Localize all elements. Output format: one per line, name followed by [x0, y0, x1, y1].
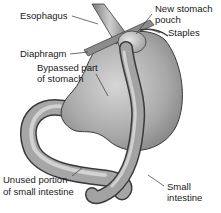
label-bypassed-stomach-2: of stomach: [37, 73, 83, 84]
label-esophagus: Esophagus: [20, 10, 68, 21]
label-unused-intestine-1: Unused portion: [3, 174, 67, 185]
label-unused-intestine-2: of small intestine: [3, 186, 74, 197]
label-new-pouch-2: pouch: [155, 14, 181, 25]
label-small-intestine-2: intestine: [167, 192, 202, 203]
label-small-intestine-1: Small: [167, 181, 191, 192]
label-staples: Staples: [168, 27, 200, 38]
label-diaphragm: Diaphragm: [20, 48, 66, 59]
label-new-pouch-1: New stomach: [155, 3, 213, 14]
label-bypassed-stomach-1: Bypassed part: [37, 62, 98, 73]
